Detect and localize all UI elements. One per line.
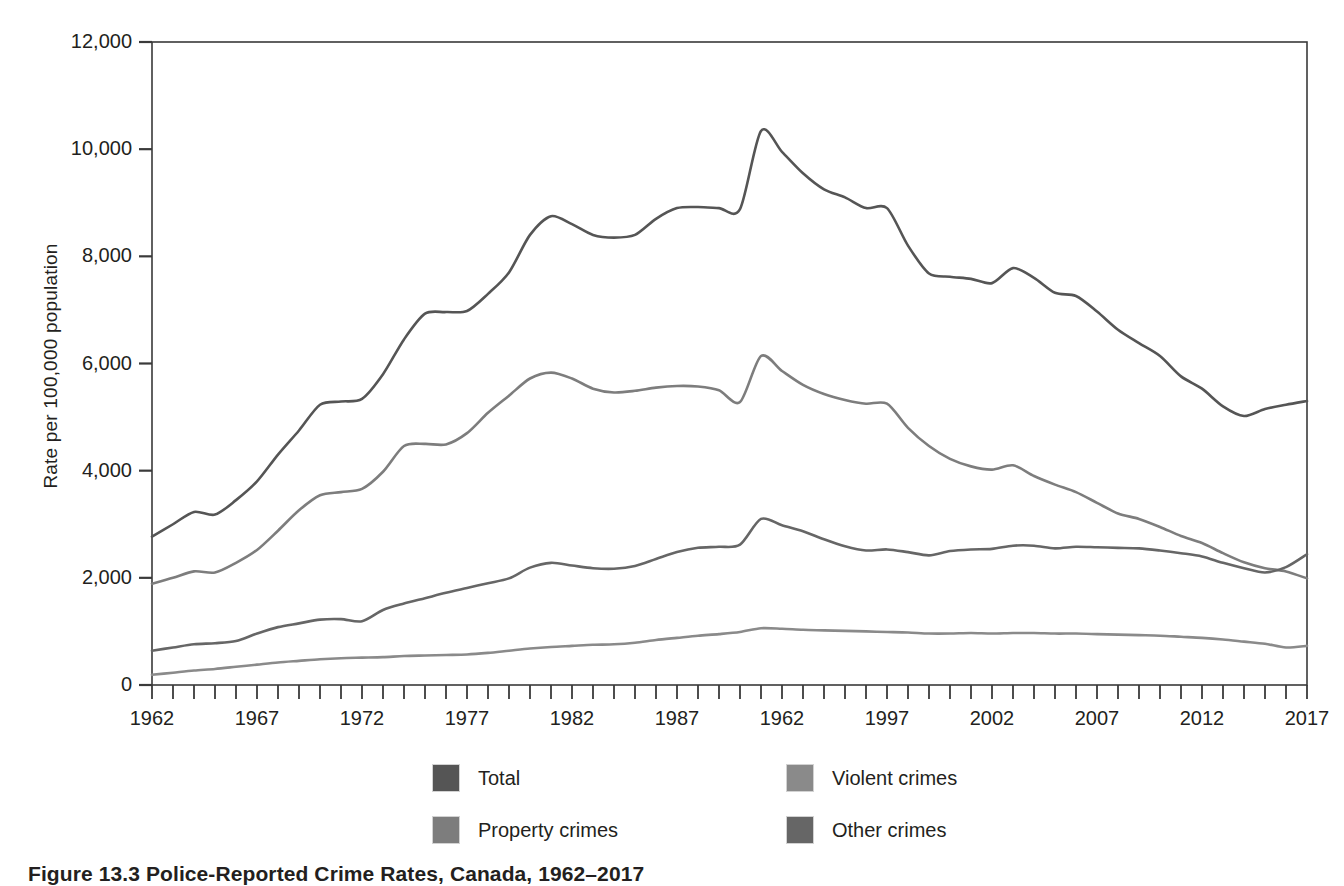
legend-item[interactable]: Other crimes: [786, 814, 946, 846]
x-tick-label: 1987: [617, 708, 737, 728]
x-tick-label: 1982: [512, 708, 632, 728]
legend-label: Violent crimes: [832, 767, 957, 790]
legend-item[interactable]: Property crimes: [432, 814, 618, 846]
legend-label: Total: [478, 767, 520, 790]
x-tick-label: 2017: [1247, 708, 1344, 728]
legend-swatch-icon: [432, 764, 460, 792]
x-tick-label: 2002: [932, 708, 1052, 728]
x-tick-label: 1977: [407, 708, 527, 728]
x-tick-label: 2012: [1142, 708, 1262, 728]
series-line-violent-crimes: [152, 628, 1307, 675]
x-tick-label: 2007: [1037, 708, 1157, 728]
axis-ticks: [139, 42, 1307, 699]
legend-swatch-icon: [786, 764, 814, 792]
series-lines: [152, 129, 1307, 675]
series-line-total: [152, 129, 1307, 536]
x-axis-tick-labels: 1962196719721977198219871962199720022007…: [0, 708, 1344, 742]
legend-label: Other crimes: [832, 819, 946, 842]
x-tick-label: 1967: [197, 708, 317, 728]
legend-swatch-icon: [786, 816, 814, 844]
legend-label: Property crimes: [478, 819, 618, 842]
legend-swatch-icon: [432, 816, 460, 844]
x-tick-label: 1962: [92, 708, 212, 728]
legend-item[interactable]: Total: [432, 762, 520, 794]
series-line-other-crimes: [152, 518, 1307, 650]
legend-item[interactable]: Violent crimes: [786, 762, 957, 794]
x-tick-label: 1972: [302, 708, 422, 728]
plot-frame: [152, 42, 1307, 685]
x-tick-label: 1997: [827, 708, 947, 728]
chart-legend: TotalViolent crimesProperty crimesOther …: [432, 762, 1052, 854]
x-tick-label: 1962: [722, 708, 842, 728]
figure-caption: Figure 13.3 Police-Reported Crime Rates,…: [28, 862, 644, 886]
